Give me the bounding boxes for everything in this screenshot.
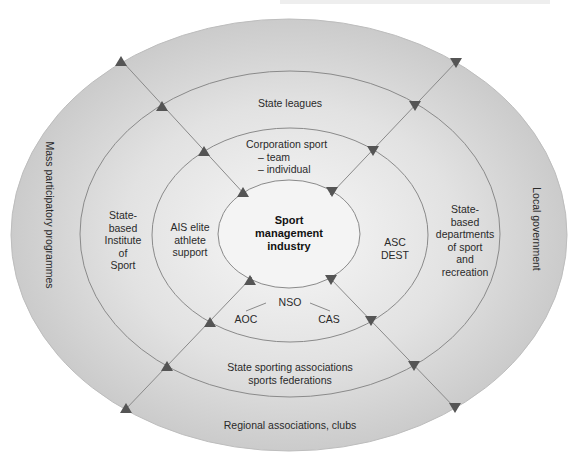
ring2-left-line: based (98, 222, 148, 235)
ring2-bottom-line: sports federations (220, 374, 360, 387)
outer-right-label: Local government (531, 179, 543, 279)
ring2-left-line: State- (98, 209, 148, 222)
ring3-left-line: support (160, 246, 220, 259)
ring2-right-line: recreation (430, 266, 500, 279)
ring3-cas-label: CAS (311, 313, 347, 326)
ring2-left-line: Sport (98, 259, 148, 272)
ring2-left-label: State- based Institute of Sport (98, 209, 148, 272)
ring2-bottom-line: State sporting associations (220, 361, 360, 374)
ring2-right-line: departments (430, 228, 500, 241)
ring2-right-label: State- based departments of sport and re… (430, 203, 500, 278)
ring3-right-label: ASC DEST (370, 236, 420, 261)
core-label: Sport management industry (239, 214, 339, 253)
ring3-top-label: Corporation sport – team – individual (240, 138, 346, 176)
ring2-bottom-label: State sporting associations sports feder… (220, 361, 360, 386)
ring2-right-line: State- (430, 203, 500, 216)
ring3-left-line: AIS elite (160, 221, 220, 234)
outer-bottom-label: Regional associations, clubs (210, 419, 370, 432)
core-line: management (239, 227, 339, 240)
ring2-right-line: of sport (430, 241, 500, 254)
ring3-top-line: – team (246, 151, 346, 164)
ring2-right-line: based (430, 216, 500, 229)
ring2-right-line: and (430, 253, 500, 266)
ring2-left-line: Institute (98, 234, 148, 247)
ring3-right-line: ASC (370, 236, 420, 249)
ring3-aoc-label: AOC (228, 313, 264, 326)
ring2-left-line: of (98, 247, 148, 260)
ring3-right-line: DEST (370, 249, 420, 262)
ring3-left-label: AIS elite athlete support (160, 221, 220, 259)
ring3-top-line: Corporation sport (246, 138, 346, 151)
core-line: Sport (239, 214, 339, 227)
ring2-top-label: State leagues (240, 97, 340, 110)
outer-left-label: Mass participatory programmes (44, 135, 56, 295)
ring3-top-line: – individual (246, 163, 346, 176)
core-line: industry (239, 240, 339, 253)
ring3-nso-label: NSO (270, 296, 310, 309)
ring3-left-line: athlete (160, 234, 220, 247)
